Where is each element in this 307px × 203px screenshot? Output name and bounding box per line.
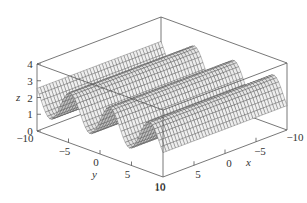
- x-tick-label: 5: [195, 168, 201, 180]
- z-tick-label: 3: [27, 75, 33, 87]
- x-axis-label: x: [245, 156, 251, 168]
- z-tick-label: 4: [27, 58, 33, 70]
- x-tick-label: 10: [155, 181, 167, 193]
- surface-plot: 01234−10−505101050−5−10 z y x: [0, 0, 307, 203]
- z-tick-label: 2: [27, 92, 33, 104]
- z-axis-label: z: [15, 91, 21, 103]
- x-tick-label: −5: [254, 145, 266, 157]
- x-tick-label: −10: [286, 131, 304, 143]
- y-axis-label: y: [91, 168, 97, 180]
- y-tick-label: 5: [125, 168, 131, 180]
- y-tick-label: −5: [59, 145, 71, 157]
- x-tick-label: 0: [226, 157, 232, 169]
- y-tick-label: −10: [16, 132, 34, 144]
- z-tick-label: 1: [27, 108, 33, 120]
- y-tick-label: 0: [93, 156, 99, 168]
- surface-mesh: [37, 41, 287, 152]
